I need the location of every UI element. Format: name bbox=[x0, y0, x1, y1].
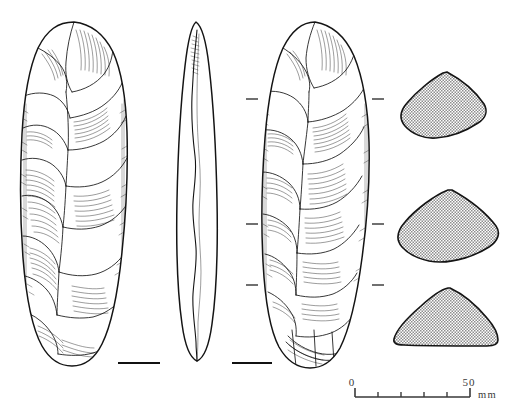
scale-unit-label: mm bbox=[478, 389, 497, 400]
scale-end-label: 50 bbox=[463, 376, 476, 388]
scale-start-label: 0 bbox=[349, 376, 356, 388]
lithic-figure-svg: 0 50 mm bbox=[0, 0, 519, 420]
illustration-plate: 0 50 mm bbox=[0, 0, 519, 420]
